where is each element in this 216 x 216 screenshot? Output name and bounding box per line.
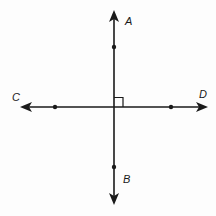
point-on-d <box>169 105 173 109</box>
label-a: A <box>124 15 132 27</box>
label-b: B <box>123 173 130 185</box>
point-on-c <box>53 105 57 109</box>
point-on-b <box>112 165 116 169</box>
label-d: D <box>199 88 207 100</box>
perpendicular-lines-diagram: A B C D <box>0 0 216 216</box>
diagram-canvas: A B C D <box>0 0 216 216</box>
right-angle-marker <box>114 98 123 108</box>
point-on-a <box>112 45 116 49</box>
label-c: C <box>12 91 20 103</box>
